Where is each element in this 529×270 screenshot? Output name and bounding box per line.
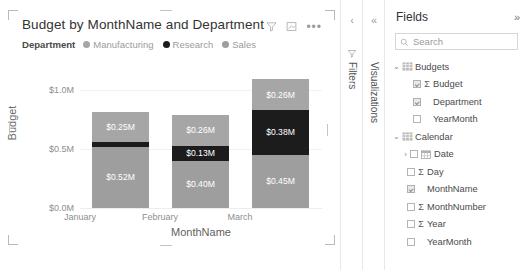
fields-pane[interactable]: Fields » Search ⌄ [384, 0, 529, 270]
field-checkbox[interactable] [413, 80, 421, 88]
chevron-right-icon[interactable]: › [401, 150, 410, 159]
y-tick-1m: $1.0M [32, 85, 74, 95]
field-checkbox[interactable] [407, 185, 415, 193]
bar-column-march[interactable]: $0.26M $0.38M $0.45M [252, 79, 309, 208]
resize-handle-bottom-left[interactable] [8, 235, 18, 245]
expand-visualizations-pane-icon[interactable]: « [371, 14, 377, 26]
field-checkbox[interactable] [413, 115, 421, 123]
field-checkbox[interactable] [413, 98, 421, 106]
legend-label: Research [173, 39, 214, 50]
legend-item-manufacturing[interactable]: Manufacturing [83, 39, 153, 50]
bar-segment-sales[interactable]: $0.52M [92, 147, 149, 208]
field-item-department[interactable]: Department [391, 93, 526, 111]
filter-icon[interactable] [266, 21, 277, 32]
data-label: $0.38M [266, 127, 295, 137]
field-checkbox[interactable] [407, 203, 415, 211]
visualizations-pane-label: Visualizations [369, 62, 380, 123]
resize-handle-bottom-right[interactable] [325, 235, 335, 245]
resize-handle-right[interactable] [327, 124, 328, 136]
filters-pane-collapsed[interactable]: ‹ Filters [340, 0, 363, 270]
stacked-column-chart-visual[interactable]: Budget by MonthName and Department ••• D… [8, 6, 334, 246]
bar-segment-manufacturing[interactable]: $0.25M [92, 112, 149, 142]
field-label: Department [433, 97, 482, 107]
bar-column-january[interactable]: $0.25M $0.52M [92, 112, 149, 208]
x-tick-january[interactable]: January [40, 212, 120, 222]
legend-label: Manufacturing [93, 39, 153, 50]
fields-search-input[interactable]: Search [395, 33, 518, 50]
data-label: $0.13M [186, 148, 215, 158]
more-options-icon[interactable]: ••• [306, 23, 322, 31]
visual-title: Budget by MonthName and Department [22, 17, 264, 32]
measure-sigma-icon: Σ [415, 167, 427, 177]
fields-table-calendar[interactable]: ⌄ Calendar [391, 128, 526, 146]
bar-segment-research[interactable]: $0.38M [252, 110, 309, 155]
field-checkbox[interactable] [407, 238, 415, 246]
visualizations-pane-collapsed[interactable]: « Visualizations [362, 0, 385, 270]
bar-column-february[interactable]: $0.26M $0.13M $0.40M [172, 115, 229, 208]
field-label: MonthName [427, 184, 478, 194]
gridline-0m [80, 208, 322, 209]
filter-icon [348, 44, 357, 62]
report-canvas[interactable]: Budget by MonthName and Department ••• D… [0, 0, 340, 270]
chart-legend[interactable]: Department Manufacturing Research Sales [22, 39, 260, 50]
field-item-budget[interactable]: Σ Budget [391, 76, 526, 94]
plot-area: $1.0M $0.5M $0.0M $0.25M $0.52M [22, 58, 322, 238]
powerbi-report-window: Budget by MonthName and Department ••• D… [0, 0, 529, 270]
measure-sigma-icon: Σ [421, 79, 433, 89]
data-label: $0.25M [106, 122, 135, 132]
resize-handle-top-left[interactable] [8, 10, 18, 20]
visual-header-icons[interactable]: ••• [266, 21, 322, 32]
resize-handle-top-right[interactable] [325, 10, 335, 20]
legend-swatch [222, 41, 229, 48]
data-label: $0.26M [266, 90, 295, 100]
legend-item-sales[interactable]: Sales [222, 39, 256, 50]
field-checkbox[interactable] [407, 168, 415, 176]
field-label: MonthNumber [427, 202, 486, 212]
field-checkbox[interactable] [410, 150, 418, 158]
data-label: $0.45M [266, 176, 295, 186]
search-icon [400, 33, 409, 51]
fields-table-budgets[interactable]: ⌄ Budgets [391, 58, 526, 76]
chevron-down-icon[interactable]: ⌄ [391, 132, 402, 141]
field-label: YearMonth [433, 114, 478, 124]
table-icon [402, 132, 415, 141]
filters-pane-label: Filters [347, 62, 358, 89]
data-label: $0.40M [186, 179, 215, 189]
resize-handle-left[interactable] [9, 124, 10, 136]
field-item-year[interactable]: Σ Year [391, 216, 526, 234]
bar-segment-sales[interactable]: $0.40M [172, 161, 229, 208]
data-label: $0.52M [106, 172, 135, 182]
legend-swatch [163, 41, 170, 48]
bar-segment-manufacturing[interactable]: $0.26M [252, 79, 309, 110]
field-item-monthname[interactable]: MonthName [391, 181, 526, 199]
field-label: Budget [433, 79, 462, 89]
focus-mode-icon[interactable] [286, 21, 297, 32]
fields-pane-title: Fields [396, 10, 428, 24]
measure-sigma-icon: Σ [415, 219, 427, 229]
expand-filters-pane-icon[interactable]: ‹ [350, 14, 354, 26]
fields-pane-header: Fields » [396, 10, 520, 24]
resize-handle-top[interactable] [160, 10, 172, 11]
resize-handle-bottom[interactable] [160, 245, 172, 246]
field-item-day[interactable]: Σ Day [391, 163, 526, 181]
x-tick-february[interactable]: February [120, 212, 200, 222]
x-axis-title: MonthName [80, 226, 322, 238]
legend-title: Department [22, 39, 75, 50]
fields-tree[interactable]: ⌄ Budgets Σ Budget [391, 58, 526, 251]
bar-segment-research[interactable]: $0.13M [172, 146, 229, 161]
legend-swatch [83, 41, 90, 48]
field-checkbox[interactable] [407, 220, 415, 228]
field-item-monthnumber[interactable]: Σ MonthNumber [391, 198, 526, 216]
bar-segment-sales[interactable]: $0.45M [252, 155, 309, 208]
field-item-yearmonth-budgets[interactable]: YearMonth [391, 111, 526, 129]
x-tick-march[interactable]: March [200, 212, 280, 222]
field-label: YearMonth [427, 237, 472, 247]
collapse-fields-pane-icon[interactable]: » [514, 11, 520, 23]
chevron-down-icon[interactable]: ⌄ [391, 62, 402, 71]
field-item-date[interactable]: › Date [391, 146, 526, 164]
field-label: Day [427, 167, 444, 177]
table-name: Budgets [415, 62, 449, 72]
field-item-yearmonth-calendar[interactable]: YearMonth [391, 233, 526, 251]
legend-item-research[interactable]: Research [163, 39, 214, 50]
bar-segment-manufacturing[interactable]: $0.26M [172, 115, 229, 146]
